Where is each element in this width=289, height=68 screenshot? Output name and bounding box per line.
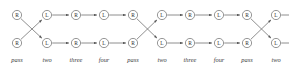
node-label: R: [245, 12, 249, 18]
column-caption: two: [271, 56, 280, 63]
node-top-7: L: [214, 10, 223, 19]
captions-layer: passtwothreefourpasstwothreefourpasstwo: [10, 56, 280, 63]
node-label: R: [15, 12, 19, 18]
node-top-6: R: [185, 10, 194, 19]
node-top-0: R: [12, 10, 21, 19]
node-label: L: [102, 12, 105, 18]
node-label: L: [217, 40, 220, 46]
crossing-edge: [137, 20, 157, 40]
node-bottom-8: R: [242, 38, 251, 47]
node-label: L: [45, 40, 48, 46]
column-caption: three: [70, 56, 83, 63]
node-bottom-0: R: [12, 38, 21, 47]
node-label: L: [102, 40, 105, 46]
node-top-3: L: [99, 10, 108, 19]
crossing-edge: [21, 20, 42, 40]
column-caption: two: [42, 56, 51, 63]
column-caption: four: [99, 56, 110, 63]
node-top-1: L: [42, 10, 51, 19]
node-bottom-3: L: [99, 38, 108, 47]
node-top-5: L: [157, 10, 166, 19]
node-bottom-4: R: [128, 38, 137, 47]
column-caption: four: [214, 56, 225, 63]
node-label: R: [15, 40, 19, 46]
node-label: R: [74, 40, 78, 46]
column-caption: two: [157, 56, 166, 63]
crossing-edge: [251, 19, 271, 39]
crossing-edge: [137, 19, 157, 39]
node-label: L: [274, 12, 277, 18]
node-bottom-9: L: [271, 38, 280, 47]
node-top-9: L: [271, 10, 280, 19]
node-label: L: [160, 40, 163, 46]
node-bottom-2: R: [71, 38, 80, 47]
node-label: R: [74, 12, 78, 18]
column-caption: pass: [10, 56, 23, 63]
node-label: L: [217, 12, 220, 18]
nodes-layer: RLRLRLRLRLRLRLRLRLRL: [12, 10, 280, 47]
node-bottom-1: L: [42, 38, 51, 47]
column-caption: pass: [126, 56, 139, 63]
node-top-2: R: [71, 10, 80, 19]
node-bottom-5: L: [157, 38, 166, 47]
braid-diagram: RLRLRLRLRLRLRLRLRLRL passtwothreefourpas…: [0, 0, 289, 68]
node-label: R: [188, 40, 192, 46]
node-label: L: [274, 40, 277, 46]
node-bottom-6: R: [185, 38, 194, 47]
column-caption: pass: [240, 56, 253, 63]
node-label: R: [131, 12, 135, 18]
node-top-4: R: [128, 10, 137, 19]
node-label: R: [188, 12, 192, 18]
node-bottom-7: L: [214, 38, 223, 47]
column-caption: three: [184, 56, 197, 63]
node-top-8: R: [242, 10, 251, 19]
node-label: R: [131, 40, 135, 46]
braid-network-svg: RLRLRLRLRLRLRLRLRLRL passtwothreefourpas…: [0, 0, 289, 68]
node-label: L: [160, 12, 163, 18]
crossing-edge: [251, 20, 271, 40]
node-label: L: [45, 12, 48, 18]
crossing-edge: [21, 19, 42, 39]
node-label: R: [245, 40, 249, 46]
